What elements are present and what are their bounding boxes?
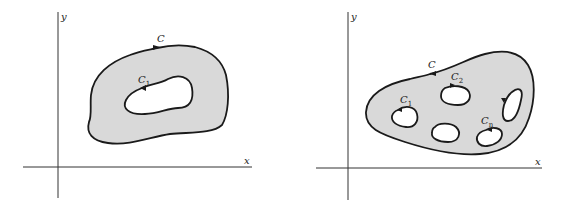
diagram-canvas: y x C C1 y x C C1 C2 Cn xyxy=(0,0,562,210)
left-y-axis-label: y xyxy=(60,11,67,22)
right-y-axis-label: y xyxy=(350,11,357,22)
right-hole-unlabeled xyxy=(432,124,459,142)
right-hole-c2 xyxy=(441,86,470,105)
right-x-axis-label: x xyxy=(535,156,541,167)
right-label-c: C xyxy=(428,59,436,70)
left-x-axis-label: x xyxy=(244,155,250,166)
left-label-c: C xyxy=(157,33,165,44)
right-figure: y x C C1 C2 Cn xyxy=(316,11,542,200)
left-figure: y x C C1 xyxy=(23,11,252,198)
